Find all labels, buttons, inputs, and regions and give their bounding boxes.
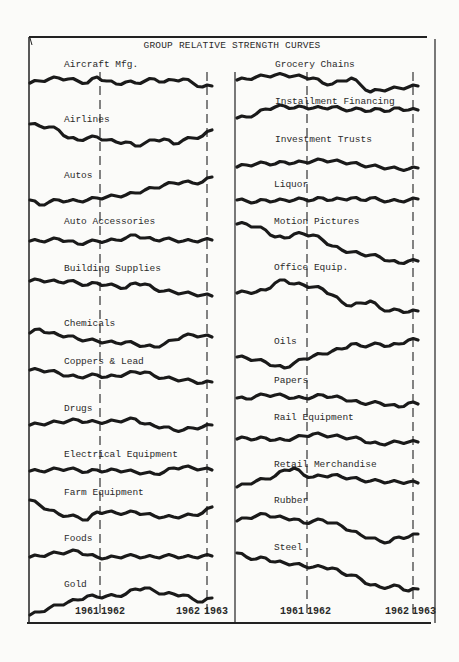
curve-retail-merchandise	[237, 468, 418, 487]
year-1962-left-a: 1962	[101, 606, 125, 617]
label-foods: Foods	[64, 533, 93, 544]
year-1963-left: 1963	[204, 606, 228, 617]
year-1962-left-b: 1962	[176, 606, 200, 617]
label-installment-financing: Installment Financing	[275, 96, 395, 107]
curve-building-supplies	[30, 279, 212, 296]
label-autos: Autos	[64, 170, 93, 181]
curve-motion-pictures	[237, 223, 418, 264]
label-auto-accessories: Auto Accessories	[64, 216, 155, 227]
label-aircraft-mfg: Aircraft Mfg.	[64, 59, 138, 70]
label-electrical-equipment: Electrical Equipment	[64, 449, 178, 460]
label-gold: Gold	[64, 579, 87, 590]
curve-investment-trusts	[237, 159, 418, 171]
label-liquor: Liquor	[274, 179, 308, 190]
chart-title: GROUP RELATIVE STRENGTH CURVES	[143, 40, 320, 51]
curve-office-equip	[237, 280, 418, 313]
year-1961-right: 1961	[280, 606, 304, 617]
year-1963-right: 1963	[412, 606, 436, 617]
chart-page: GROUP RELATIVE STRENGTH CURVES Aircraft …	[0, 0, 459, 662]
year-1962-right-a: 1962	[307, 606, 331, 617]
curve-foods	[30, 550, 212, 559]
curve-electrical-equipment	[30, 466, 212, 475]
year-1962-right-b: 1962	[385, 606, 409, 617]
label-farm-equipment: Farm Equipment	[64, 487, 144, 498]
left-column-curves	[30, 77, 212, 615]
label-chemicals: Chemicals	[64, 318, 115, 329]
curve-rail-equipment	[237, 433, 418, 445]
curve-rubber	[237, 514, 418, 544]
label-papers: Papers	[274, 375, 308, 386]
curve-steel	[237, 553, 418, 591]
curve-liquor	[237, 198, 418, 204]
label-office-equip: Office Equip.	[274, 262, 348, 273]
label-rubber: Rubber	[274, 495, 308, 506]
label-oils: Oils	[274, 336, 297, 347]
label-airlines: Airlines	[64, 114, 110, 125]
label-grocery-chains: Grocery Chains	[275, 59, 355, 70]
year-1961-left: 1961	[75, 606, 99, 617]
label-rail-equipment: Rail Equipment	[274, 412, 354, 423]
right-x-axis-labels: 1961 1962 1962 1963	[280, 606, 436, 617]
label-building-supplies: Building Supplies	[64, 263, 161, 274]
curve-aircraft-mfg	[30, 77, 212, 87]
left-x-axis-labels: 1961 1962 1962 1963	[75, 606, 228, 617]
curve-coppers-lead	[30, 369, 212, 384]
label-motion-pictures: Motion Pictures	[274, 216, 360, 227]
label-steel: Steel	[274, 542, 303, 553]
curve-papers	[237, 394, 418, 407]
curve-chemicals	[30, 329, 212, 347]
label-retail-merchandise: Retail Merchandise	[274, 459, 377, 470]
right-column-curves	[237, 74, 418, 592]
curve-drugs	[30, 418, 212, 432]
curve-grocery-chains	[237, 74, 418, 93]
label-coppers-lead: Coppers & Lead	[64, 356, 144, 367]
curve-airlines	[30, 124, 212, 147]
relative-strength-chart: GROUP RELATIVE STRENGTH CURVES Aircraft …	[0, 0, 459, 662]
curve-oils	[237, 339, 418, 369]
curve-auto-accessories	[30, 235, 212, 245]
curve-autos	[30, 177, 212, 205]
label-investment-trusts: Investment Trusts	[275, 134, 372, 145]
curve-farm-equipment	[30, 500, 212, 520]
label-drugs: Drugs	[64, 403, 93, 414]
